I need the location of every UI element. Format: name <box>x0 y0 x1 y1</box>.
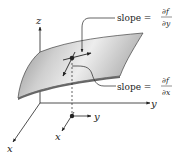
local-y-label: y <box>93 111 100 122</box>
slope-x-denominator: ∂x <box>162 88 171 97</box>
x-axis <box>13 103 40 142</box>
slope-y-denominator: ∂y <box>162 19 171 28</box>
slope-y-numerator: ∂f <box>162 7 170 16</box>
projected-point <box>70 114 74 118</box>
slope-x-numerator: ∂f <box>162 76 170 85</box>
diagram-canvas: z y x y x slope = ∂f ∂y slope = ∂f ∂x <box>0 0 182 160</box>
x-axis-label: x <box>7 143 13 154</box>
y-axis-label: y <box>150 98 157 109</box>
slope-y-prefix: slope = <box>117 13 151 23</box>
partial-derivative-diagram: z y x y x slope = ∂f ∂y slope = ∂f ∂x <box>0 0 182 160</box>
local-x-label: x <box>55 131 61 142</box>
z-axis-label: z <box>35 15 42 26</box>
slope-x-prefix: slope = <box>117 82 151 92</box>
surface-point <box>70 56 75 61</box>
